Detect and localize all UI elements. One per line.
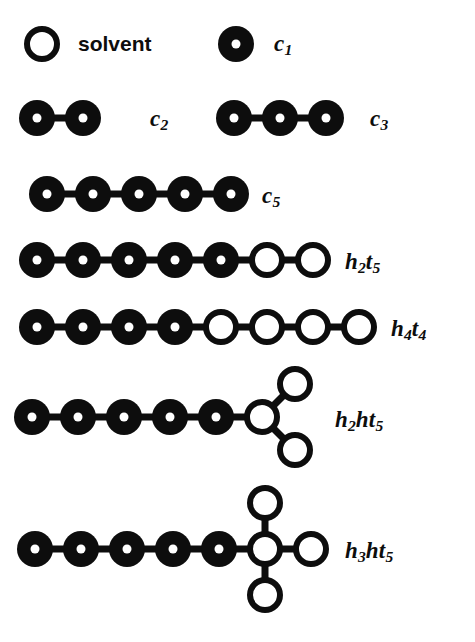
open-bead <box>206 312 236 342</box>
molecule-label-h2ht5: h2ht5 <box>335 408 383 434</box>
filled-bead <box>19 242 55 278</box>
filled-bead <box>65 242 101 278</box>
filled-bead <box>63 531 99 567</box>
label-subscript: 5 <box>272 193 280 210</box>
filled-bead <box>198 399 234 435</box>
bead-center-dot <box>33 114 42 123</box>
label-subscript-2: 4 <box>418 326 426 343</box>
legend-monomer-subscript: 1 <box>284 41 292 58</box>
legend-solvent-bead <box>27 29 57 59</box>
molecule-label-h3ht5: h3ht5 <box>345 539 393 565</box>
bead-center-dot <box>79 323 88 332</box>
filled-bead <box>65 100 101 136</box>
bead-center-dot <box>227 190 236 199</box>
branch-open-bead <box>296 534 326 564</box>
bead-center-dot <box>33 256 42 265</box>
molecule-architecture-diagram: solvent c1 c2c3c5h2t5h4t4h2ht5h3ht5 <box>0 0 475 642</box>
bead-center-dot <box>166 413 175 422</box>
label-subscript: 2 <box>348 417 356 434</box>
molecule-label-h2t5: h2t5 <box>345 250 380 276</box>
legend-monomer-label: c1 <box>274 32 292 58</box>
label-symbol: h <box>345 249 358 274</box>
filled-bead <box>17 531 53 567</box>
bead-center-dot <box>120 413 129 422</box>
bead-center-dot <box>43 190 52 199</box>
filled-bead <box>65 309 101 345</box>
bead-center-dot <box>125 256 134 265</box>
legend-solvent-label: solvent <box>78 33 152 54</box>
filled-bead <box>109 531 145 567</box>
bead-center-dot <box>33 323 42 332</box>
filled-bead <box>167 176 203 212</box>
bead-center-dot <box>215 545 224 554</box>
bead-center-dot <box>31 545 40 554</box>
filled-bead <box>19 309 55 345</box>
molecule-label-c3: c3 <box>370 107 388 133</box>
label-symbol: c <box>262 183 272 208</box>
filled-bead <box>19 100 55 136</box>
bead-center-dot <box>74 413 83 422</box>
filled-bead <box>203 242 239 278</box>
label-subscript-2: 5 <box>385 548 393 565</box>
bead-center-dot <box>123 545 132 554</box>
open-bead <box>298 312 328 342</box>
filled-bead <box>308 100 344 136</box>
open-bead <box>247 402 277 432</box>
filled-bead <box>157 242 193 278</box>
molecule-label-c2: c2 <box>150 107 168 133</box>
label-subscript: 2 <box>160 116 168 133</box>
label-symbol: c <box>370 106 380 131</box>
filled-bead <box>152 399 188 435</box>
open-bead <box>252 312 282 342</box>
label-symbol: h <box>391 316 404 341</box>
legend-monomer-symbol: c <box>274 31 284 56</box>
bead-center-dot <box>276 114 285 123</box>
filled-bead <box>155 531 191 567</box>
bead-center-dot <box>79 256 88 265</box>
open-bead <box>252 245 282 275</box>
filled-bead <box>75 176 111 212</box>
filled-bead <box>106 399 142 435</box>
label-symbol-2: ht <box>356 407 376 432</box>
bead-center-dot <box>169 545 178 554</box>
filled-bead <box>111 309 147 345</box>
molecule-label-h4t4: h4t4 <box>391 317 426 343</box>
branch-open-bead <box>280 369 310 399</box>
bead-center-dot <box>212 413 221 422</box>
label-subscript: 3 <box>358 548 366 565</box>
branch-open-bead <box>280 435 310 465</box>
filled-bead <box>262 100 298 136</box>
label-subscript-2: 5 <box>372 259 380 276</box>
filled-bead <box>121 176 157 212</box>
open-bead <box>344 312 374 342</box>
label-subscript: 2 <box>358 259 366 276</box>
filled-bead <box>111 242 147 278</box>
open-bead <box>250 534 280 564</box>
bead-center-dot <box>232 40 241 49</box>
label-symbol: c <box>150 106 160 131</box>
filled-bead <box>213 176 249 212</box>
branch-open-bead <box>250 580 280 610</box>
bead-center-dot <box>171 323 180 332</box>
bead-center-dot <box>181 190 190 199</box>
filled-bead <box>60 399 96 435</box>
filled-bead <box>14 399 50 435</box>
bead-center-dot <box>77 545 86 554</box>
bead-center-dot <box>89 190 98 199</box>
label-symbol: h <box>345 538 358 563</box>
label-subscript: 4 <box>404 326 412 343</box>
bead-center-dot <box>230 114 239 123</box>
label-subscript-2: 5 <box>375 417 383 434</box>
legend-monomer-bead <box>218 26 254 62</box>
filled-bead <box>29 176 65 212</box>
filled-bead <box>201 531 237 567</box>
bead-center-dot <box>322 114 331 123</box>
label-subscript: 3 <box>380 116 388 133</box>
bead-center-dot <box>217 256 226 265</box>
molecule-label-c5: c5 <box>262 184 280 210</box>
filled-bead <box>216 100 252 136</box>
branch-open-bead <box>250 488 280 518</box>
bead-center-dot <box>171 256 180 265</box>
label-symbol: h <box>335 407 348 432</box>
open-bead <box>298 245 328 275</box>
